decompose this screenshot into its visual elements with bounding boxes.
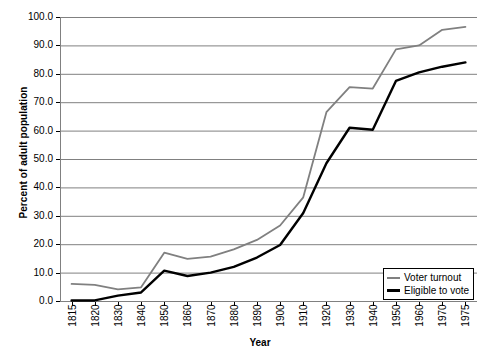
- series-line-eligible-to-vote: [72, 62, 466, 300]
- x-tick-label: 1940: [367, 296, 378, 336]
- x-axis-tick-labels: 1815182018301840185018601870188018901900…: [60, 302, 477, 342]
- x-tick-label: 1880: [228, 296, 239, 336]
- y-tick-label: 30.0: [1, 211, 53, 221]
- x-tick-label: 1930: [344, 296, 355, 336]
- x-tick-label: 1815: [66, 296, 77, 336]
- y-tick-label: 60.0: [1, 126, 53, 136]
- y-axis-tick-labels: 100.090.080.070.060.050.040.030.020.010.…: [0, 0, 53, 358]
- voter-turnout-line-chart: Percent of adult population 100.090.080.…: [0, 0, 490, 358]
- y-tick-label: 0.0: [1, 296, 53, 306]
- x-tick-label: 1830: [112, 296, 123, 336]
- x-tick-label: 1850: [159, 296, 170, 336]
- y-tick-label: 10.0: [1, 268, 53, 278]
- x-tick-label: 1960: [414, 296, 425, 336]
- x-tick-label: 1950: [390, 296, 401, 336]
- x-tick-label: 1900: [275, 296, 286, 336]
- y-tick-label: 20.0: [1, 239, 53, 249]
- y-tick-label: 100.0: [1, 12, 53, 22]
- x-tick-label: 1840: [136, 296, 147, 336]
- x-tick-label: 1890: [251, 296, 262, 336]
- y-tick-label: 40.0: [1, 182, 53, 192]
- y-tick-label: 70.0: [1, 97, 53, 107]
- x-tick-label: 1970: [437, 296, 448, 336]
- x-tick-label: 1860: [182, 296, 193, 336]
- y-tick-label: 80.0: [1, 69, 53, 79]
- x-tick-label: 1920: [321, 296, 332, 336]
- legend-item-voter-turnout: Voter turnout: [387, 271, 469, 284]
- x-axis-title: Year: [60, 337, 460, 348]
- legend-item-eligible-to-vote: Eligible to vote: [387, 284, 469, 297]
- gray-line-swatch: [387, 277, 400, 279]
- chart-legend: Voter turnout Eligible to vote: [383, 268, 474, 300]
- x-tick-label: 1910: [298, 296, 309, 336]
- legend-label-eligible-to-vote: Eligible to vote: [404, 285, 469, 296]
- x-tick-label: 1975: [460, 296, 471, 336]
- y-tick-label: 90.0: [1, 40, 53, 50]
- plot-area: [60, 17, 477, 301]
- data-series-lines: [60, 17, 477, 301]
- y-tick-label: 50.0: [1, 154, 53, 164]
- black-line-swatch: [387, 289, 400, 292]
- x-tick-label: 1870: [205, 296, 216, 336]
- x-tick-label: 1820: [89, 296, 100, 336]
- legend-label-voter-turnout: Voter turnout: [404, 272, 461, 283]
